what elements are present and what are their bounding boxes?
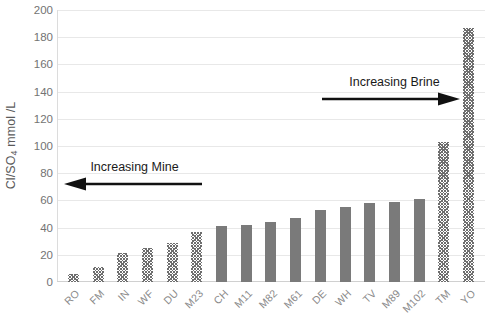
x-label-slot: M61 — [283, 284, 308, 325]
x-label-slot: M82 — [259, 284, 284, 325]
y-axis-tick-label: 120 — [34, 113, 53, 125]
annotation-increasing-mine-label: Increasing Mine — [62, 160, 207, 174]
x-axis-tick-label: M82 — [256, 287, 279, 310]
y-axis-tick-label: 0 — [47, 276, 53, 288]
bar[interactable] — [191, 232, 202, 282]
arrow-right-icon — [322, 92, 467, 110]
x-axis-tick-label: DU — [161, 287, 181, 307]
x-axis-tick-label: M11 — [232, 287, 255, 310]
bar-slot — [135, 10, 160, 282]
x-label-slot: CH — [209, 284, 234, 325]
x-label-slot: RO — [61, 284, 86, 325]
y-axis-title-subscript: 4 — [10, 150, 20, 155]
y-axis-tick-label: 20 — [40, 249, 53, 261]
x-axis-tick-label: WH — [332, 287, 353, 308]
arrow-left-icon — [62, 177, 207, 195]
x-axis-tick-label: WF — [136, 287, 156, 307]
x-label-slot: WF — [135, 284, 160, 325]
x-axis-tick-label: RO — [62, 287, 82, 307]
x-label-slot: FM — [86, 284, 111, 325]
x-axis-tick-label: M23 — [182, 287, 205, 310]
bar[interactable] — [414, 199, 425, 282]
bar-slot — [283, 10, 308, 282]
bar[interactable] — [93, 267, 104, 282]
y-axis-tick-label: 140 — [34, 86, 53, 98]
annotation-increasing-brine-label: Increasing Brine — [322, 75, 467, 89]
bar[interactable] — [142, 248, 153, 282]
bar-slot — [357, 10, 382, 282]
x-label-slot: M102 — [407, 284, 432, 325]
x-label-slot: M23 — [185, 284, 210, 325]
bar-slot — [456, 10, 481, 282]
bar[interactable] — [364, 203, 375, 282]
x-label-slot: DU — [160, 284, 185, 325]
bar-slot — [259, 10, 284, 282]
x-axis-tick-label: IN — [115, 287, 131, 303]
x-axis-tick-labels: ROFMINWFDUM23CHM11M82M61DEWHTVM89M102TMY… — [57, 284, 485, 325]
bar[interactable] — [389, 202, 400, 282]
annotation-increasing-mine: Increasing Mine — [62, 160, 207, 195]
x-axis-tick-label: DE — [310, 287, 329, 306]
bar[interactable] — [265, 222, 276, 282]
x-label-slot: TV — [357, 284, 382, 325]
y-axis-tick-label: 180 — [34, 31, 53, 43]
bar[interactable] — [167, 243, 178, 282]
y-axis-tick-label: 160 — [34, 58, 53, 70]
x-axis-tick-label: M89 — [380, 287, 403, 310]
bar[interactable] — [290, 218, 301, 282]
bar[interactable] — [438, 142, 449, 282]
bar[interactable] — [117, 253, 128, 282]
y-axis-tick-label: 60 — [40, 194, 53, 206]
bar[interactable] — [68, 274, 79, 282]
bar-slot — [110, 10, 135, 282]
bar-chart: Cl/SO4 mmol /L 0204060801001201401601802… — [0, 0, 490, 325]
y-axis-tick-labels: 020406080100120140160180200 — [24, 10, 56, 288]
x-label-slot: IN — [110, 284, 135, 325]
bar[interactable] — [315, 210, 326, 282]
bar-slot — [308, 10, 333, 282]
y-axis-title: Cl/SO4 mmol /L — [0, 0, 24, 290]
y-axis-tick-label: 100 — [34, 140, 53, 152]
plot-area — [57, 10, 485, 288]
bar[interactable] — [463, 28, 474, 282]
bar-slot — [234, 10, 259, 282]
x-axis-tick-label: M61 — [281, 287, 304, 310]
x-label-slot: YO — [456, 284, 481, 325]
x-label-slot: TM — [432, 284, 457, 325]
bar-slot — [407, 10, 432, 282]
bar-slot — [160, 10, 185, 282]
bar[interactable] — [340, 207, 351, 282]
x-label-slot: M11 — [234, 284, 259, 325]
x-axis-tick-label: FM — [87, 287, 106, 306]
bar-slot — [86, 10, 111, 282]
y-axis-tick-label: 200 — [34, 4, 53, 16]
y-axis-title-text: Cl/SO4 mmol /L — [5, 101, 20, 189]
x-axis-tick-label: CH — [211, 287, 231, 307]
x-axis-tick-label: TM — [433, 287, 452, 306]
x-label-slot: WH — [333, 284, 358, 325]
x-label-slot: DE — [308, 284, 333, 325]
bar-slot — [61, 10, 86, 282]
x-axis-tick-label: TV — [360, 287, 378, 305]
bar[interactable] — [241, 225, 252, 282]
bar-slot — [333, 10, 358, 282]
annotation-increasing-brine: Increasing Brine — [322, 75, 467, 110]
y-axis-tick-label: 40 — [40, 222, 53, 234]
bar-slot — [382, 10, 407, 282]
bar-slot — [185, 10, 210, 282]
x-axis-tick-label: YO — [458, 287, 478, 307]
bars-container — [57, 10, 485, 282]
bar-slot — [209, 10, 234, 282]
bar[interactable] — [216, 226, 227, 282]
bar-slot — [432, 10, 457, 282]
y-axis-tick-label: 80 — [40, 167, 53, 179]
